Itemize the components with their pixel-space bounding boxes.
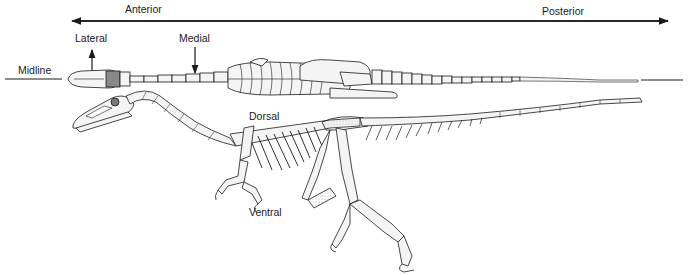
tail-vertebrae-dorsal: [372, 70, 520, 84]
shaded-ischium: [308, 188, 336, 208]
lateral-view-skeleton: [73, 91, 642, 272]
second-foot: [332, 204, 350, 248]
hindlimb-dorsal: [330, 88, 397, 98]
scapula: [240, 126, 254, 160]
orbit: [111, 98, 119, 106]
tibia: [350, 200, 404, 242]
label-posterior: Posterior: [542, 5, 584, 17]
metatarsus: [398, 236, 412, 266]
femur: [336, 128, 358, 204]
dorsal-view-skeleton: [68, 58, 638, 98]
neck-vertebrae-dorsal: [130, 72, 228, 82]
label-lateral: Lateral: [75, 32, 107, 44]
label-medial: Medial: [179, 32, 210, 44]
tail-lateral: [360, 98, 642, 126]
label-anterior: Anterior: [125, 3, 162, 15]
label-dorsal: Dorsal: [249, 110, 279, 122]
label-midline: Midline: [18, 64, 51, 76]
tail-tip-dorsal: [520, 77, 638, 82]
label-ventral: Ventral: [249, 206, 282, 218]
